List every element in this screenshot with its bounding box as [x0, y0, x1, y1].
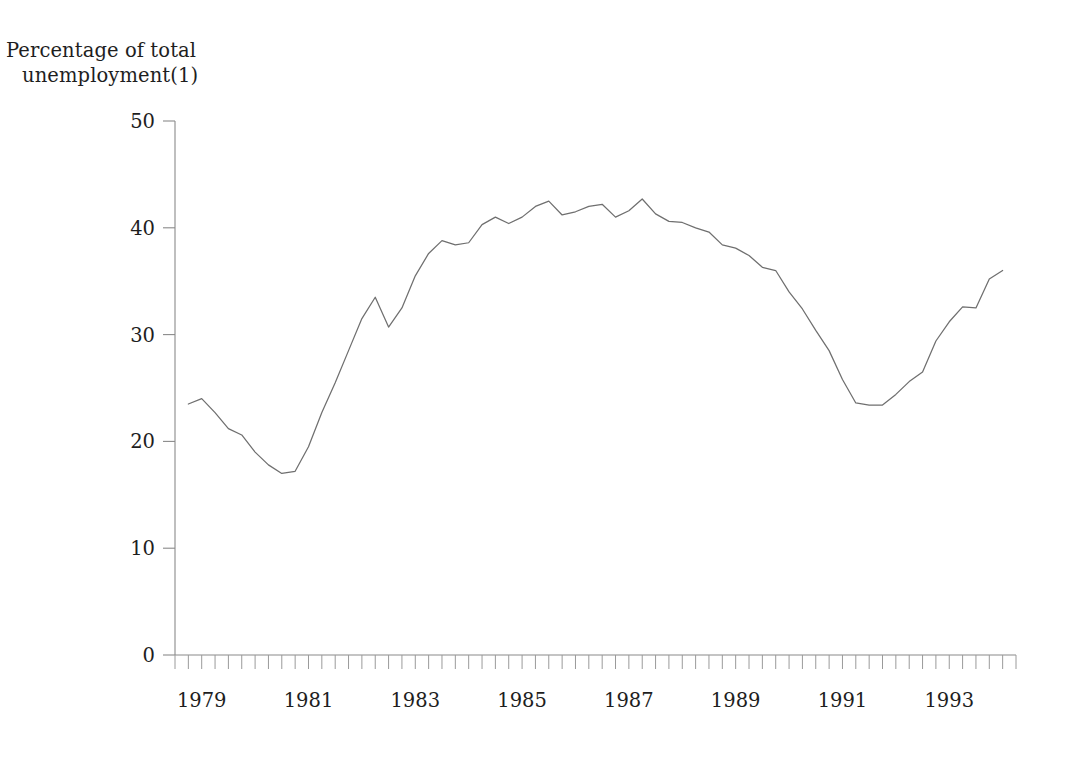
y-tick-label: 20 [130, 430, 155, 453]
line-chart-plot: 01020304050 1979198119831985198719891991… [0, 0, 1068, 763]
y-tick-label: 30 [130, 324, 155, 347]
x-tick-label: 1985 [497, 689, 547, 712]
x-tick-label: 1991 [818, 689, 868, 712]
y-tick-label: 10 [130, 537, 155, 560]
data-line-unemployment [188, 199, 1002, 473]
y-tick-label: 50 [130, 110, 155, 133]
x-tick-label: 1993 [924, 689, 974, 712]
chart-container: Percentage of totalunemployment(1) 01020… [0, 0, 1068, 763]
data-series-group [188, 199, 1002, 473]
y-axis: 01020304050 [130, 110, 175, 667]
x-tick-label: 1983 [390, 689, 440, 712]
x-tick-label: 1979 [177, 689, 227, 712]
y-tick-label: 0 [143, 644, 155, 667]
x-axis: 19791981198319851987198919911993 [175, 655, 1016, 712]
x-tick-label: 1981 [284, 689, 334, 712]
y-tick-label: 40 [130, 217, 155, 240]
x-tick-label: 1989 [711, 689, 761, 712]
x-tick-label: 1987 [604, 689, 654, 712]
